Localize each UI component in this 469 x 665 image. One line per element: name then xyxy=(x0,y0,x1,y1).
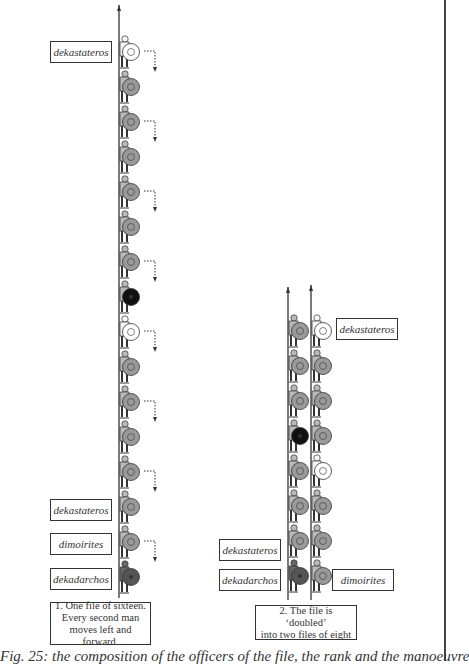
soldier-head-icon xyxy=(314,455,320,461)
shield-icon xyxy=(315,533,332,550)
dotted-arrow-icon xyxy=(144,121,155,139)
shield-icon xyxy=(292,393,309,410)
caption-line: Every second man xyxy=(55,612,146,624)
arrowhead-icon xyxy=(153,347,157,352)
soldier-head-icon xyxy=(291,385,297,391)
panel2-caption: 2. The file is ‘doubled’ into two files … xyxy=(255,605,357,640)
shield-icon xyxy=(123,464,140,481)
label-text: dekastateros xyxy=(222,544,277,556)
soldier-head-icon xyxy=(291,455,297,461)
shield-icon xyxy=(292,498,309,515)
soldier-head-icon xyxy=(122,316,128,322)
shield-icon xyxy=(292,358,309,375)
soldier-head-icon xyxy=(122,36,128,42)
label-dekadarchos: dekadarchos xyxy=(50,568,112,590)
shield-boss-icon xyxy=(298,434,302,438)
soldier-head-icon xyxy=(122,141,128,147)
shield-icon xyxy=(315,498,332,515)
dotted-arrow-icon xyxy=(144,261,155,279)
soldier-head-icon xyxy=(122,386,128,392)
spear-tip-icon xyxy=(309,285,313,291)
soldier-head-icon xyxy=(122,491,128,497)
arrowhead-icon xyxy=(153,277,157,282)
label-text: dekastateros xyxy=(53,504,108,516)
label-dimoirites: dimoirites xyxy=(50,533,112,555)
soldier-head-icon xyxy=(314,420,320,426)
label-dekastateros-bottom: dekastateros xyxy=(50,499,112,521)
soldier-head-icon xyxy=(122,561,128,567)
label-dekastateros-left: dekastateros xyxy=(219,539,281,561)
soldier-head-icon xyxy=(122,211,128,217)
label-text: dekastateros xyxy=(53,46,108,58)
soldier-head-icon xyxy=(122,71,128,77)
soldier-head-icon xyxy=(122,351,128,357)
shield-icon xyxy=(123,359,140,376)
figure-caption: Fig. 25: the composition of the officers… xyxy=(0,648,444,665)
label-text: dimoirites xyxy=(59,538,104,550)
soldier-head-icon xyxy=(314,315,320,321)
label-text: dimoirites xyxy=(341,574,386,586)
soldier-head-icon xyxy=(291,525,297,531)
label-dekastateros-top: dekastateros xyxy=(50,41,112,63)
shield-icon xyxy=(123,219,140,236)
shield-boss-icon xyxy=(129,575,133,579)
label-text: dekadarchos xyxy=(222,574,278,586)
shield-icon xyxy=(292,463,309,480)
shield-icon xyxy=(315,323,332,340)
dotted-arrow-icon xyxy=(144,541,155,559)
arrowhead-icon xyxy=(153,137,157,142)
arrowhead-icon xyxy=(153,67,157,72)
spear-tip-icon xyxy=(286,287,290,293)
label-text: dekastateros xyxy=(339,323,394,335)
caption-line: 1. One file of sixteen. xyxy=(55,600,146,612)
label-dekastateros-right: dekastateros xyxy=(336,318,398,340)
soldier-head-icon xyxy=(122,246,128,252)
soldier-head-icon xyxy=(314,525,320,531)
caption-line: 2. The file is ‘doubled’ xyxy=(260,605,352,629)
soldier-head-icon xyxy=(314,350,320,356)
soldier-head-icon xyxy=(291,350,297,356)
shield-icon xyxy=(315,463,332,480)
caption-line: moves left and forward. xyxy=(55,624,146,648)
soldier-head-icon xyxy=(291,315,297,321)
label-text: dekadarchos xyxy=(53,573,109,585)
dotted-arrow-icon xyxy=(144,191,155,209)
shield-icon xyxy=(123,149,140,166)
soldier-head-icon xyxy=(314,560,320,566)
label-dimoirites-right: dimoirites xyxy=(332,569,394,591)
arrowhead-icon xyxy=(153,207,157,212)
soldier-head-icon xyxy=(122,421,128,427)
shield-icon xyxy=(315,393,332,410)
shield-icon xyxy=(123,534,140,551)
soldier-head-icon xyxy=(122,281,128,287)
soldier-head-icon xyxy=(291,560,297,566)
shield-icon xyxy=(315,568,332,585)
shield-icon xyxy=(123,79,140,96)
arrowhead-icon xyxy=(153,557,157,562)
shield-icon xyxy=(315,358,332,375)
soldier-head-icon xyxy=(122,456,128,462)
caption-line: into two files of eight xyxy=(260,629,352,641)
panel1-caption: 1. One file of sixteen. Every second man… xyxy=(50,602,151,645)
shield-icon xyxy=(123,254,140,271)
shield-icon xyxy=(292,323,309,340)
soldier-head-icon xyxy=(314,490,320,496)
soldier-head-icon xyxy=(122,106,128,112)
shield-boss-icon xyxy=(129,295,133,299)
shield-icon xyxy=(123,44,140,61)
label-dekadarchos-left: dekadarchos xyxy=(219,569,281,591)
dotted-arrow-icon xyxy=(144,401,155,419)
shield-icon xyxy=(123,184,140,201)
shield-icon xyxy=(123,429,140,446)
soldier-head-icon xyxy=(122,526,128,532)
dotted-arrow-icon xyxy=(144,51,155,69)
shield-icon xyxy=(123,394,140,411)
shield-icon xyxy=(123,499,140,516)
shield-icon xyxy=(292,533,309,550)
shield-icon xyxy=(123,114,140,131)
soldier-head-icon xyxy=(122,176,128,182)
dotted-arrow-icon xyxy=(144,331,155,349)
soldier-head-icon xyxy=(314,385,320,391)
shield-icon xyxy=(315,428,332,445)
shield-icon xyxy=(123,324,140,341)
